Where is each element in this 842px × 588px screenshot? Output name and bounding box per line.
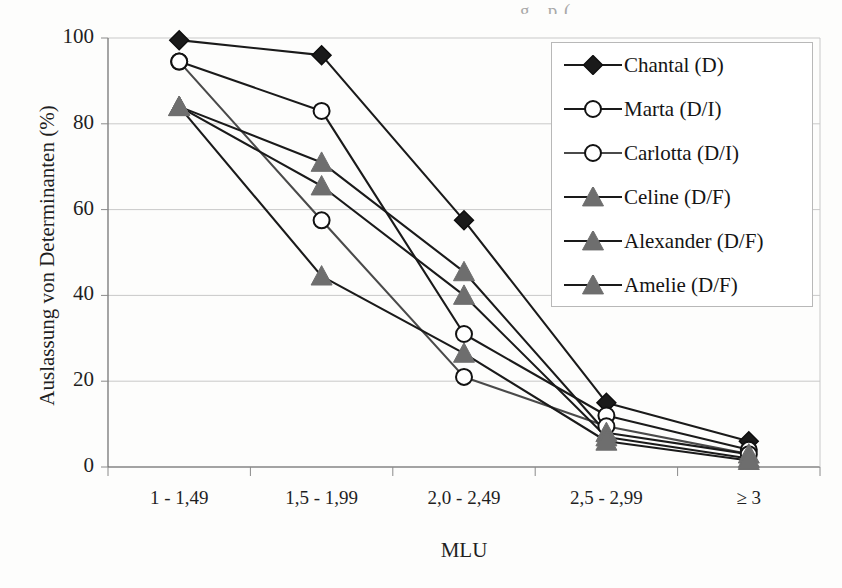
line-chart: Auslassung von Determinanten (%) MLU 020… [0,0,842,588]
legend-symbol-filled-triangle-icon [564,231,622,251]
legend-key-icon [564,143,622,163]
y-tick-label: 20 [22,367,94,392]
legend-item-2[interactable]: Carlotta (D/I) [552,131,812,175]
legend-key-icon [564,231,622,251]
x-tick-label: 1 - 1,49 [108,487,250,509]
x-tick-label: ≥ 3 [678,487,820,509]
data-point-3-2 [454,261,475,280]
legend-marker [585,101,601,117]
data-point-5-0 [169,96,190,115]
data-point-1-2 [456,326,472,342]
data-point-3-1 [311,152,332,171]
x-tick-label: 1,5 - 1,99 [250,487,392,509]
legend-key-icon [564,275,622,295]
data-point-1-1 [314,103,330,119]
y-tick-label: 100 [22,24,94,49]
legend-label: Marta (D/I) [624,97,721,122]
legend-symbol-filled-diamond-icon [564,55,622,75]
legend-symbol-open-circle-icon [564,99,622,119]
data-point-5-2 [454,343,475,362]
legend-key-icon [564,55,622,75]
x-tick-label: 2,5 - 2,99 [535,487,677,509]
legend-marker [585,145,601,161]
y-tick-label: 0 [22,453,94,478]
legend-item-5[interactable]: Amelie (D/F) [552,263,812,307]
y-axis-label: Auslassung von Determinanten (%) [35,46,60,466]
data-point-2-0 [171,54,187,70]
legend-item-0[interactable]: Chantal (D) [552,43,812,87]
legend-item-1[interactable]: Marta (D/I) [552,87,812,131]
x-axis-label: MLU [108,538,820,563]
legend-label: Celine (D/F) [624,185,731,210]
y-tick-label: 80 [22,110,94,135]
data-point-2-2 [456,369,472,385]
chart-page: g , p ( Auslassung von Determinanten (%)… [0,0,842,588]
x-tick-label: 2,0 - 2,49 [393,487,535,509]
legend-symbol-filled-triangle-icon [564,187,622,207]
legend-label: Chantal (D) [624,53,724,78]
legend-item-4[interactable]: Alexander (D/F) [552,219,812,263]
y-tick-label: 60 [22,196,94,221]
data-point-4-2 [454,285,475,304]
legend-marker [584,56,603,75]
data-point-2-1 [314,212,330,228]
legend-label: Amelie (D/F) [624,273,738,298]
legend-key-icon [564,187,622,207]
legend-label: Alexander (D/F) [624,229,763,254]
legend-symbol-open-circle-icon [564,143,622,163]
y-tick-label: 40 [22,281,94,306]
legend-item-3[interactable]: Celine (D/F) [552,175,812,219]
legend-symbol-filled-triangle-icon [564,275,622,295]
legend-key-icon [564,99,622,119]
chart-legend: Chantal (D)Marta (D/I)Carlotta (D/I)Celi… [551,42,813,307]
data-point-4-1 [311,176,332,195]
legend-label: Carlotta (D/I) [624,141,739,166]
data-point-0-0 [170,31,189,50]
